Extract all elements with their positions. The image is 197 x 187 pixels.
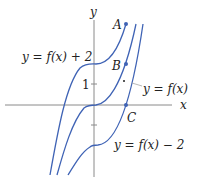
point-a: [124, 22, 128, 26]
label-f-minus-2: y = f(x) − 2: [113, 138, 184, 152]
point-c: [124, 103, 128, 107]
pointer-dot: [123, 80, 125, 82]
point-label-c: C: [127, 111, 136, 125]
curve-f-plus-2: [50, 24, 126, 175]
x-axis-label: x: [180, 98, 187, 112]
label-f-plus-2: y = f(x) + 2: [21, 50, 92, 64]
point-label-b: B: [111, 59, 121, 73]
point-b: [124, 62, 128, 66]
graph-canvas: y x 1 A B C y = f(x) + 2 y = f(x) y = f(…: [0, 0, 197, 187]
curve-f-minus-2: [68, 24, 143, 175]
tick-label-1: 1: [82, 78, 90, 92]
label-f: y = f(x): [142, 82, 188, 96]
label-leader: [132, 83, 142, 86]
y-axis-label: y: [89, 5, 97, 19]
curve-f: [57, 24, 136, 175]
point-label-a: A: [112, 18, 122, 32]
